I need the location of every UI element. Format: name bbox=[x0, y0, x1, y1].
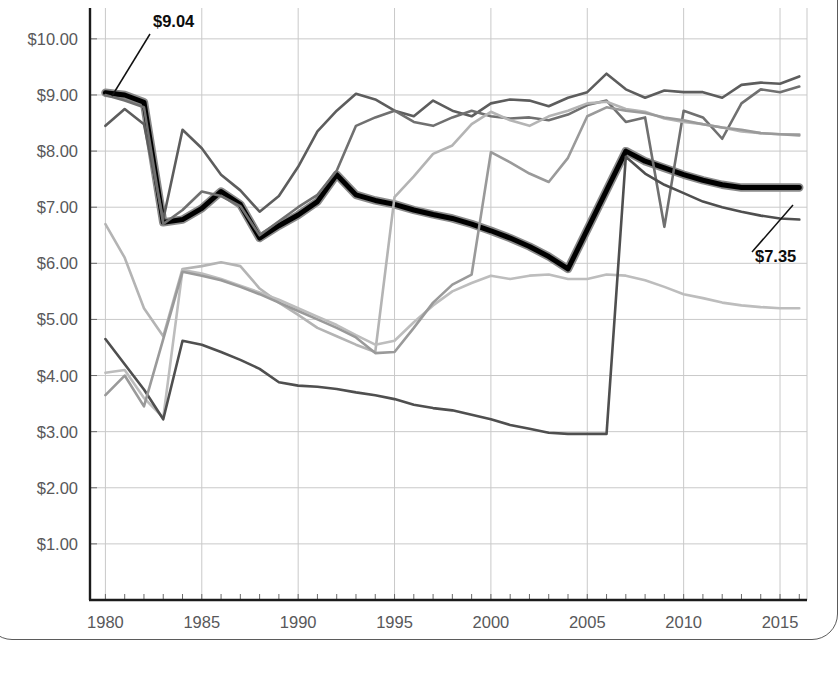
annotation-layer: $9.04$7.35 bbox=[112, 12, 796, 265]
series-line-series-f-gray-faint bbox=[105, 107, 799, 406]
y-axis-tick-label: $6.00 bbox=[37, 254, 78, 272]
series-line-halo bbox=[105, 93, 799, 269]
grid-layer bbox=[90, 8, 807, 600]
series-line-series-d-light-gray-falling bbox=[105, 270, 799, 418]
x-axis-tick-label: 2000 bbox=[473, 613, 510, 631]
y-axis-tick-label: $10.00 bbox=[28, 30, 78, 48]
annotation-leader-line bbox=[112, 34, 150, 96]
y-axis-tick-label: $9.00 bbox=[37, 86, 78, 104]
annotation-label: $9.04 bbox=[153, 12, 195, 30]
x-axis-tick-label: 1980 bbox=[87, 613, 124, 631]
x-axis-tick-label: 2010 bbox=[665, 613, 702, 631]
x-axis-tick-label: 2005 bbox=[569, 613, 606, 631]
series-line-series-c-light-gray-rising bbox=[105, 102, 799, 352]
y-axis-tick-label: $2.00 bbox=[37, 479, 78, 497]
x-axis-tick-label: 2015 bbox=[762, 613, 799, 631]
x-axis-tick-label: 1985 bbox=[183, 613, 220, 631]
y-axis-tick-label: $1.00 bbox=[37, 535, 78, 553]
y-axis-tick-label: $3.00 bbox=[37, 423, 78, 441]
series-layer bbox=[105, 74, 799, 434]
y-axis-tick-label: $5.00 bbox=[37, 310, 78, 328]
annotation-leader-line bbox=[752, 205, 793, 252]
axis-layer bbox=[89, 8, 807, 600]
annotation-label: $7.35 bbox=[755, 247, 796, 265]
y-axis-tick-label: $8.00 bbox=[37, 142, 78, 160]
x-axis-tick-label: 1995 bbox=[376, 613, 413, 631]
x-axis-tick-label: 1990 bbox=[280, 613, 317, 631]
y-axis-tick-label: $7.00 bbox=[37, 198, 78, 216]
y-axis-tick-label: $4.00 bbox=[37, 367, 78, 385]
